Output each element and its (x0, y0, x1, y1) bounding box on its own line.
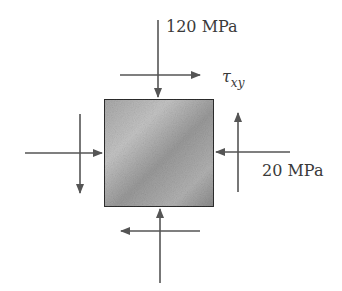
normal-stress-y-label: 120 MPa (166, 17, 238, 36)
stress-element-diagram: 120 MPa τxy 20 MPa (0, 0, 342, 291)
stress-element (104, 99, 214, 207)
shear-subscript: xy (231, 76, 245, 90)
normal-stress-x-label: 20 MPa (262, 161, 324, 180)
shear-stress-label: τxy (222, 67, 245, 90)
